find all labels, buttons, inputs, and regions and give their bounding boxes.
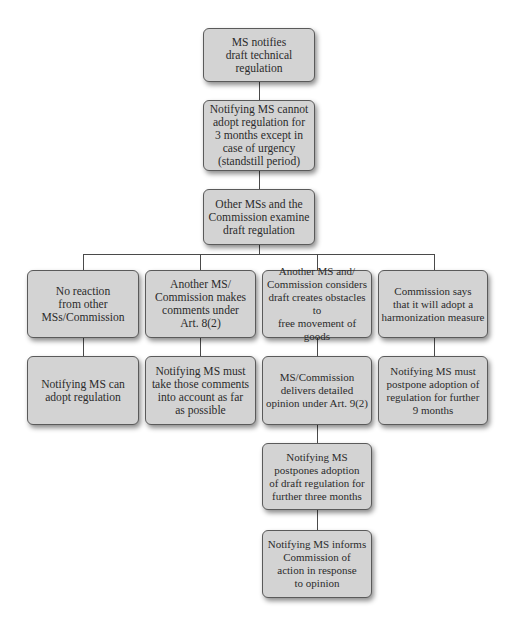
node-label: Notifying MS must take those comments in… <box>152 365 249 417</box>
connector-branch-b4 <box>434 254 435 270</box>
connector-b2-r2 <box>200 338 201 356</box>
node-take-comments: Notifying MS must take those comments in… <box>145 356 256 425</box>
node-label: Other MSs and the Commission examine dra… <box>209 198 310 237</box>
node-label: MS/Commission delivers detailed opinion … <box>266 371 368 410</box>
node-label: Notifying MS can adopt regulation <box>41 378 125 404</box>
node-label: Notifying MS must postpone adoption of r… <box>387 365 480 417</box>
connector-n2-n3 <box>259 171 260 189</box>
node-postpone-9-months: Notifying MS must postpone adoption of r… <box>378 356 488 425</box>
node-label: No reaction from other MSs/Commission <box>41 285 124 324</box>
node-detailed-opinion: MS/Commission delivers detailed opinion … <box>262 356 372 425</box>
connector-r3-n7 <box>317 425 318 443</box>
node-examine-draft: Other MSs and the Commission examine dra… <box>203 189 315 245</box>
node-label: Another MS and/ Commission considers dra… <box>264 265 370 343</box>
branch-bar <box>83 254 434 255</box>
node-obstacles-goods: Another MS and/ Commission considers dra… <box>262 270 372 338</box>
node-label: Another MS/ Commission makes comments un… <box>155 278 246 330</box>
connector-n1-n2 <box>259 82 260 100</box>
connector-b4-r4 <box>434 338 435 356</box>
node-comments-art8: Another MS/ Commission makes comments un… <box>145 270 256 338</box>
connector-n7-n8 <box>317 510 318 530</box>
node-ms-notifies: MS notifies draft technical regulation <box>203 28 315 82</box>
connector-b1-r1 <box>83 338 84 356</box>
connector-branch-b1 <box>83 254 84 270</box>
connector-branch-b2 <box>200 254 201 270</box>
flowchart-canvas: MS notifies draft technical regulation N… <box>0 0 513 629</box>
node-harmonization: Commission says that it will adopt a har… <box>378 270 488 338</box>
node-standstill-period: Notifying MS cannot adopt regulation for… <box>203 100 315 171</box>
node-label: Commission says that it will adopt a har… <box>382 285 485 324</box>
node-label: MS notifies draft technical regulation <box>226 36 293 75</box>
node-no-reaction: No reaction from other MSs/Commission <box>27 270 139 338</box>
node-label: Notifying MS postpones adoption of draft… <box>269 451 365 503</box>
node-can-adopt: Notifying MS can adopt regulation <box>27 356 139 425</box>
node-postpone-3-months: Notifying MS postpones adoption of draft… <box>262 443 372 510</box>
node-informs-commission: Notifying MS informs Commission of actio… <box>262 530 372 598</box>
node-label: Notifying MS cannot adopt regulation for… <box>210 103 309 168</box>
node-label: Notifying MS informs Commission of actio… <box>268 538 366 590</box>
connector-n3-branch <box>259 245 260 254</box>
